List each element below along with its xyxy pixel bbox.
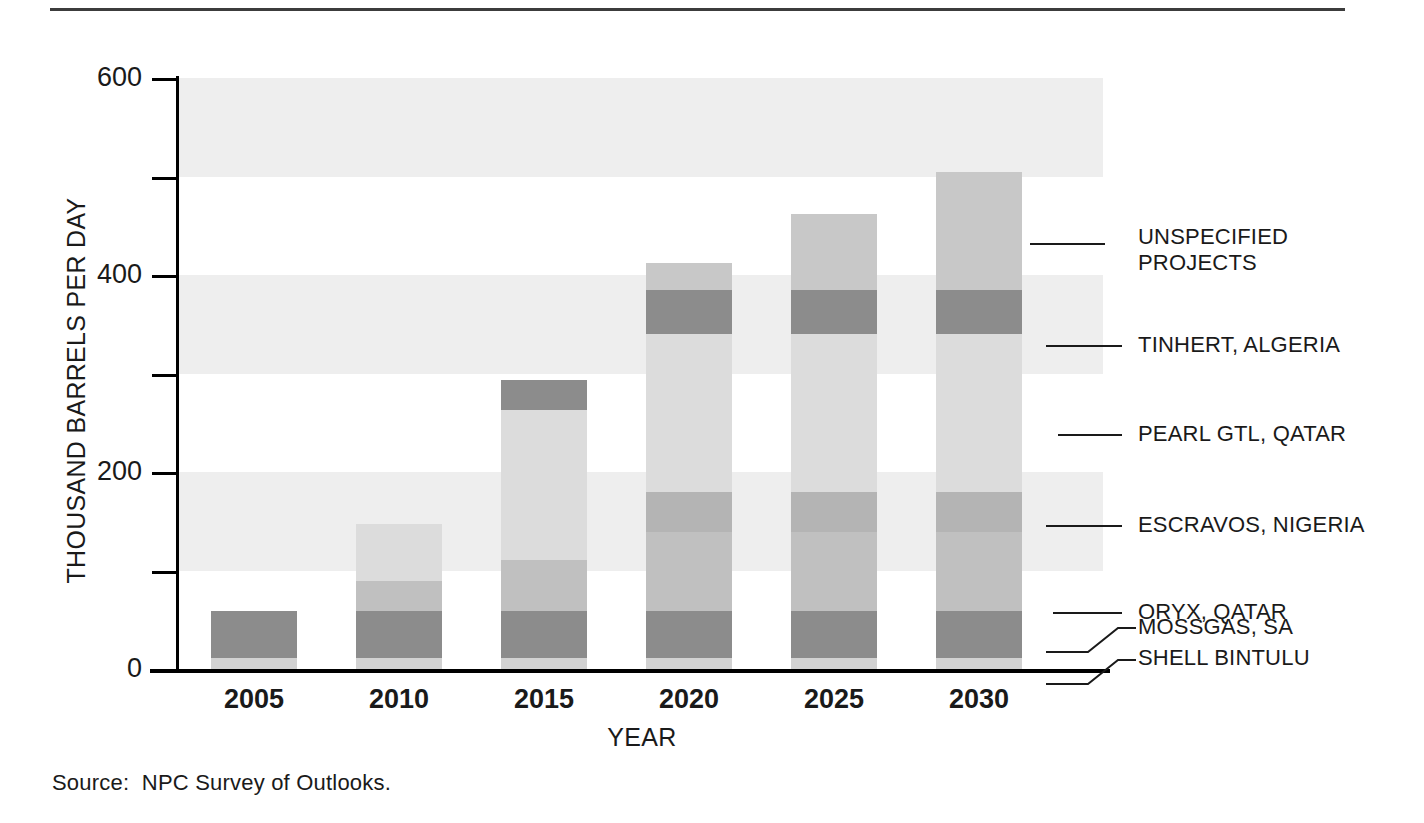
x-tick-label-2010: 2010 [319,684,479,714]
y-tick-600 [152,78,178,81]
plot-area [178,78,1103,670]
y-axis-title: THOUSAND BARRELS PER DAY [62,141,91,641]
segment-escravos-nigeria [791,492,877,532]
segment-unspecified-projects [646,263,732,290]
leader-line-mossgas-sa [1046,626,1136,654]
segment-tinhert-algeria [936,290,1022,334]
segment-tinhert-algeria [791,290,877,334]
legend-label-tinhert-algeria: TINHERT, ALGERIA [1138,332,1340,358]
segment-unspecified-projects [791,214,877,290]
segment-tinhert-algeria [646,290,732,334]
segment-escravos-nigeria [646,492,732,532]
segment-mossgas-sa [936,611,1022,658]
legend-label-unspecified-projects: UNSPECIFIED PROJECTS [1138,224,1288,276]
segment-tinhert-algeria [501,380,587,410]
background-band-500-600 [178,78,1103,177]
legend-label-escravos-nigeria: ESCRAVOS, NIGERIA [1138,512,1365,538]
leader-line-escravos-nigeria [1046,525,1122,527]
leader-line-unspecified-projects [1030,243,1105,245]
source-note: Source: NPC Survey of Outlooks. [52,770,391,796]
segment-oryx-qatar [936,532,1022,611]
y-tick-300 [152,374,178,377]
segment-oryx-qatar [356,581,442,611]
segment-mossgas-sa [356,611,442,658]
legend-label-shell-bintulu: SHELL BINTULU [1138,645,1310,671]
x-axis-title: YEAR [552,723,732,752]
leader-line-shell-bintulu [1046,658,1136,686]
y-tick-200 [152,472,178,475]
segment-pearl-gtl-qatar [356,524,442,581]
top-divider-rule [50,8,1345,11]
segment-pearl-gtl-qatar [791,334,877,492]
y-tick-400 [152,275,178,278]
leader-line-oryx-qatar [1053,612,1122,614]
segment-escravos-nigeria [936,492,1022,532]
y-tick-500 [152,177,178,180]
segment-mossgas-sa [501,611,587,658]
segment-oryx-qatar [791,532,877,611]
y-tick-label-0: 0 [52,655,142,682]
y-tick-0 [152,669,178,672]
segment-oryx-qatar [501,560,587,611]
segment-mossgas-sa [211,611,297,658]
leader-line-pearl-gtl-qatar [1058,434,1122,436]
legend-label-pearl-gtl-qatar: PEARL GTL, QATAR [1138,421,1346,447]
leader-line-tinhert-algeria [1046,345,1122,347]
chart-figure: 600 400 200 0 THOUSAND BARRELS PER DAY 2… [0,0,1424,823]
segment-unspecified-projects [936,172,1022,290]
x-axis-line [150,669,1110,673]
x-tick-label-2015: 2015 [464,684,624,714]
x-tick-label-2005: 2005 [174,684,334,714]
segment-pearl-gtl-qatar [646,334,732,492]
segment-oryx-qatar [646,532,732,611]
x-tick-label-2020: 2020 [609,684,769,714]
y-tick-100 [152,571,178,574]
segment-mossgas-sa [791,611,877,658]
segment-pearl-gtl-qatar [936,334,1022,492]
x-tick-label-2030: 2030 [899,684,1059,714]
x-tick-label-2025: 2025 [754,684,914,714]
legend-label-mossgas-sa: MOSSGAS, SA [1138,614,1293,640]
y-tick-label-600: 600 [52,64,142,91]
segment-mossgas-sa [646,611,732,658]
segment-pearl-gtl-qatar [501,410,587,560]
